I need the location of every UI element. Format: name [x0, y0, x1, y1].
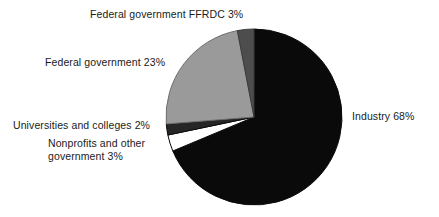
pie-label-universities-and-colleges: Universities and colleges 2% [13, 119, 150, 132]
pie-label-nonprofits-line-2: government 3% [48, 150, 123, 162]
pie-chart-figure: Federal government FFRDC 3% Federal gove… [0, 0, 439, 217]
pie-slice-group [166, 29, 342, 205]
pie-label-federal-government-ffrdc: Federal government FFRDC 3% [90, 8, 243, 21]
pie-label-nonprofits-line-1: Nonprofits and other [48, 137, 145, 149]
pie-label-industry: Industry 68% [352, 110, 414, 123]
pie-chart-svg [0, 0, 439, 217]
pie-label-nonprofits-and-other-government: Nonprofits and other government 3% [48, 137, 166, 163]
pie-label-federal-government: Federal government 23% [45, 56, 165, 69]
